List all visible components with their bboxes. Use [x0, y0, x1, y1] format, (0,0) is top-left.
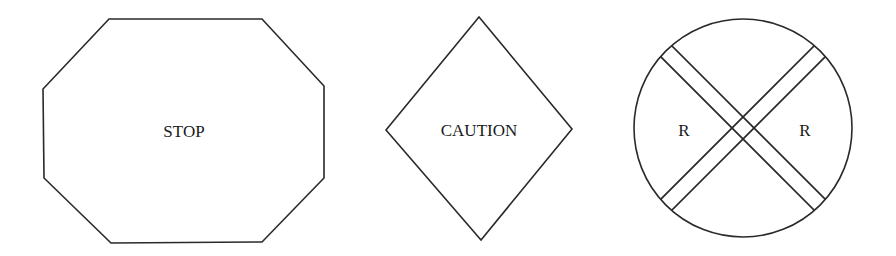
railroad-crossing-sign: R R — [632, 17, 854, 239]
r-label-right: R — [799, 121, 811, 140]
caution-sign: CAUTION — [386, 17, 572, 240]
crossbuck — [632, 17, 854, 239]
crossbuck-band-2-edge-a — [632, 17, 843, 228]
caution-label: CAUTION — [441, 121, 518, 140]
crossbuck-band-1-edge-a — [643, 17, 854, 228]
stop-label: STOP — [163, 122, 204, 141]
r-label-left: R — [678, 121, 690, 140]
crossbuck-band-1-edge-b — [632, 28, 843, 239]
crossbuck-band-2-edge-b — [643, 28, 854, 239]
stop-sign: STOP — [43, 19, 324, 243]
road-signs-diagram: STOP CAUTION R R — [0, 0, 896, 256]
circle-shape — [634, 19, 852, 237]
